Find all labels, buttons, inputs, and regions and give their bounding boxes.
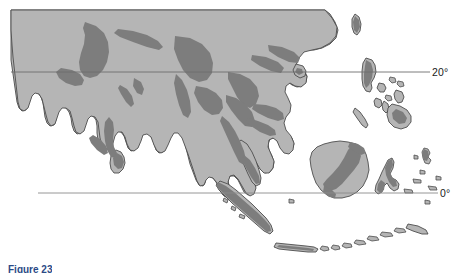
landmass-lesser-sunda-5 (380, 232, 393, 237)
landmass-timor (406, 224, 428, 234)
landmass-philippine-islet-b (397, 81, 404, 87)
landmass-lesser-sunda-4 (367, 236, 379, 241)
latitude-label-20n: 20° (432, 66, 448, 78)
landmass-lesser-sunda-3 (354, 240, 366, 245)
landmass-moluccas-islet-d (428, 186, 437, 190)
landmass-lesser-sunda-1 (331, 245, 340, 250)
landmass-palawan (353, 108, 368, 128)
landmass-bali (320, 246, 329, 251)
landmass-moluccas-islet-a (414, 155, 418, 159)
landmass-moluccas-islet-e (404, 189, 413, 193)
landmass-asia-mainland-body (11, 10, 337, 198)
landmass-philippine-islet-a (389, 77, 396, 83)
landmass-mentawai-c (239, 214, 245, 219)
landmass-panay (374, 98, 382, 108)
landmass-moluccas-islet-c (413, 179, 421, 183)
figure-container: 20° 0° Figure 23 (0, 0, 461, 273)
landmass-lesser-sunda-2 (342, 243, 352, 248)
landmass-moluccas-islet-f (436, 176, 441, 180)
landmass-moluccas-islet-b (420, 170, 425, 174)
figure-caption: Figure 23 (8, 263, 52, 273)
landmass-natuna (289, 199, 294, 203)
landmass-mindoro (377, 83, 386, 92)
latitude-label-equator: 0° (440, 187, 450, 199)
landmass-lesser-sunda-6 (394, 228, 406, 233)
landmass-mentawai-b (231, 206, 236, 211)
landmass-samar (394, 90, 404, 103)
map-graphic (0, 0, 461, 273)
landmass-islet-east (425, 200, 430, 204)
landmass-philippine-islet-c (385, 95, 392, 101)
